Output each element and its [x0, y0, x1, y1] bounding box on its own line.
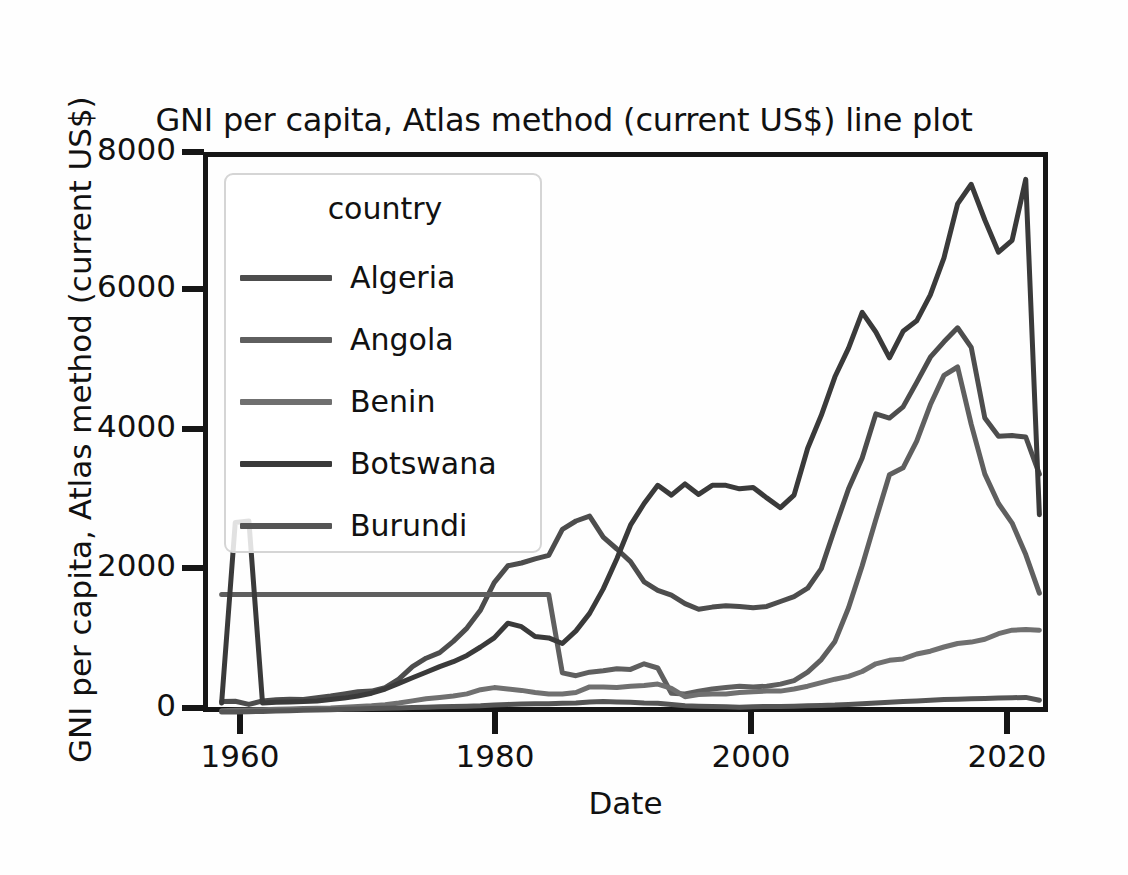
x-tick-label-1980: 1980 — [420, 738, 570, 774]
legend-label-algeria: Algeria — [350, 263, 455, 293]
legend: country Algeria Angola Benin Botswana Bu… — [224, 173, 542, 553]
legend-item-burundi[interactable]: Burundi — [240, 495, 540, 557]
y-tick-mark-0 — [182, 705, 204, 711]
legend-item-angola[interactable]: Angola — [240, 309, 540, 371]
legend-swatch-benin — [240, 399, 332, 405]
legend-swatch-angola — [240, 337, 332, 343]
legend-item-algeria[interactable]: Algeria — [240, 247, 540, 309]
legend-label-burundi: Burundi — [350, 511, 467, 541]
x-axis-label: Date — [203, 785, 1048, 821]
legend-swatch-algeria — [240, 275, 332, 281]
legend-label-benin: Benin — [350, 387, 435, 417]
legend-item-benin[interactable]: Benin — [240, 371, 540, 433]
legend-label-angola: Angola — [350, 325, 454, 355]
chart-figure: GNI per capita, Atlas method (current US… — [0, 0, 1128, 875]
y-tick-label-6000: 6000 — [28, 268, 176, 304]
x-tick-label-1960: 1960 — [165, 738, 315, 774]
y-tick-label-0: 0 — [28, 687, 176, 723]
y-tick-label-2000: 2000 — [28, 547, 176, 583]
legend-swatch-botswana — [240, 461, 332, 467]
y-tick-mark-6000 — [182, 286, 204, 292]
legend-item-botswana[interactable]: Botswana — [240, 433, 540, 495]
y-tick-mark-8000 — [182, 149, 204, 155]
legend-label-botswana: Botswana — [350, 449, 497, 479]
y-tick-mark-2000 — [182, 565, 204, 571]
y-tick-label-4000: 4000 — [28, 408, 176, 444]
y-tick-label-8000: 8000 — [28, 131, 176, 167]
x-tick-label-2020: 2020 — [932, 738, 1082, 774]
x-tick-label-2000: 2000 — [676, 738, 826, 774]
legend-title: country — [226, 191, 544, 226]
y-tick-mark-4000 — [182, 426, 204, 432]
legend-swatch-burundi — [240, 523, 332, 529]
